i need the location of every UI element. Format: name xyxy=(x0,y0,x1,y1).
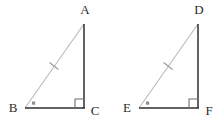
vertex-label-e: E xyxy=(123,100,131,115)
triangle-abc: A B C xyxy=(9,2,100,118)
angle-marker-dot-e xyxy=(146,102,149,105)
hypotenuse-tick-mark-ab xyxy=(50,63,59,70)
hypotenuse-tick-mark-de xyxy=(164,63,173,70)
vertex-label-f: F xyxy=(205,103,212,118)
right-angle-marker-c xyxy=(75,99,84,108)
geometry-figure: A B C D E F xyxy=(0,0,224,125)
vertex-label-a: A xyxy=(80,2,90,17)
angle-marker-dot-b xyxy=(32,102,35,105)
right-angle-marker-f xyxy=(189,99,198,108)
vertex-label-d: D xyxy=(194,2,203,17)
triangle-def: D E F xyxy=(123,2,213,118)
figure-canvas: A B C D E F xyxy=(0,0,224,125)
vertex-label-b: B xyxy=(9,100,18,115)
vertex-label-c: C xyxy=(91,103,100,118)
